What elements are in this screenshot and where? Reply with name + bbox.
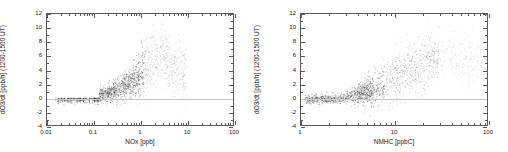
x-tick-minor [230,14,231,16]
y-tick-minor [47,106,49,107]
plot-area-nmhc [300,13,488,126]
x-tick-minor [116,14,117,16]
y-tick-major [47,28,51,29]
x-tick-minor [485,123,486,125]
x-tick-label: 10 [184,129,191,135]
x-tick-minor [122,14,123,16]
y-tick-major [483,56,487,57]
x-tick-minor [84,14,85,16]
y-tick-labels-right: -4-2024681012 [276,13,296,126]
x-tick-label: 0.1 [89,129,97,135]
x-tick-minor [380,14,381,16]
y-tick-minor [301,92,303,93]
y-tick-major [483,42,487,43]
x-tick-minor [367,123,368,125]
panel-nmhc: dO3/dt [ppb/h] (1200-1500 UT) -4-2024681… [254,0,508,152]
x-tick-major [47,14,48,18]
y-tick-major [229,127,233,128]
y-tick-minor [485,106,487,107]
scatter-figure: dO3/dt [ppb/h] (1200-1500 UT) -4-2024681… [0,0,508,152]
y-tick-minor [485,21,487,22]
x-tick-major [235,14,236,18]
x-tick-minor [163,14,164,16]
x-tick-minor [452,123,453,125]
x-tick-label: 100 [229,129,239,135]
x-tick-major [235,121,236,125]
x-tick-major [141,14,142,18]
y-tick-label: -2 [22,109,42,115]
y-tick-minor [231,21,233,22]
y-tick-minor [47,21,49,22]
x-tick-minor [485,14,486,16]
x-tick-major [489,14,490,18]
y-tick-minor [485,35,487,36]
x-tick-major [301,121,302,125]
x-tick-minor [374,123,375,125]
x-tick-minor [221,14,222,16]
x-tick-minor [155,14,156,16]
x-tick-minor [202,14,203,16]
x-tick-minor [210,123,211,125]
scatter-points [301,14,487,125]
x-tick-minor [228,14,229,16]
y-tick-label: 4 [276,67,296,73]
y-tick-major [47,56,51,57]
y-tick-minor [301,106,303,107]
y-tick-minor [301,78,303,79]
x-tick-minor [228,123,229,125]
y-tick-minor [485,120,487,121]
x-tick-minor [186,14,187,16]
x-tick-minor [233,14,234,16]
x-tick-minor [367,14,368,16]
y-tick-minor [485,49,487,50]
x-tick-minor [440,123,441,125]
y-tick-minor [231,106,233,107]
x-tick-minor [92,123,93,125]
y-axis-title-left: dO3/dt [ppb/h] (1200-1500 UT) [0,13,12,126]
y-tick-label: 8 [22,38,42,44]
y-tick-major [301,56,305,57]
y-tick-minor [301,63,303,64]
x-tick-minor [202,123,203,125]
y-tick-major [483,127,487,128]
x-tick-minor [61,14,62,16]
x-tick-minor [423,14,424,16]
panel-nox: dO3/dt [ppb/h] (1200-1500 UT) -4-2024681… [0,0,254,152]
x-tick-major [94,14,95,18]
x-tick-label: 100 [483,129,493,135]
x-tick-minor [225,123,226,125]
x-tick-minor [80,123,81,125]
x-tick-major [94,121,95,125]
y-tick-label: 10 [276,24,296,30]
y-tick-major [47,85,51,86]
x-tick-labels-right: 110100 [300,129,488,138]
y-tick-minor [485,78,487,79]
y-tick-major [47,127,51,128]
x-tick-minor [216,14,217,16]
y-tick-minor [47,63,49,64]
x-tick-major [47,121,48,125]
x-tick-minor [174,123,175,125]
x-tick-minor [61,123,62,125]
x-tick-minor [468,123,469,125]
scatter-points [47,14,233,125]
x-tick-minor [139,123,140,125]
x-tick-minor [136,123,137,125]
x-tick-minor [122,123,123,125]
y-tick-minor [231,120,233,121]
x-tick-minor [169,14,170,16]
x-tick-minor [474,14,475,16]
y-tick-label: 0 [276,95,296,101]
y-tick-major [301,71,305,72]
x-tick-minor [169,123,170,125]
x-tick-minor [386,123,387,125]
x-tick-labels-left: 0.010.1110100 [46,129,234,138]
x-tick-minor [329,14,330,16]
x-tick-minor [346,123,347,125]
zero-reference-line [301,99,487,100]
x-tick-major [489,121,490,125]
x-tick-minor [233,123,234,125]
y-tick-minor [231,35,233,36]
x-tick-minor [210,14,211,16]
y-tick-minor [47,78,49,79]
